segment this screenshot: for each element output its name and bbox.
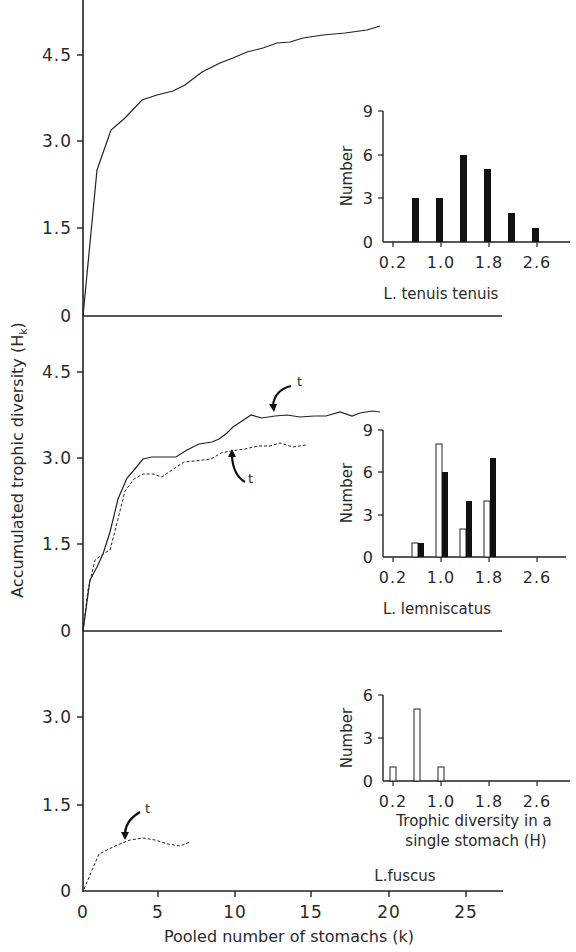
inset-x-title: Trophic diversity in a xyxy=(395,812,551,830)
panel-lemniscatus: 4.5 3.0 1.5 0 t t 9 6 3 0 Number xyxy=(42,362,566,641)
t-arrow-icon xyxy=(273,386,291,405)
x-tick: 5 xyxy=(152,902,164,922)
inset-y-tick: 0 xyxy=(363,548,374,567)
inset-y-tick: 3 xyxy=(363,729,374,748)
inset-fuscus: 6 3 0 Number 0.2 1.0 1.8 2.6 Trophic div… xyxy=(338,686,570,885)
inset-y-tick: 9 xyxy=(363,102,374,121)
inset-y-tick: 6 xyxy=(363,686,374,705)
y-tick: 3.0 xyxy=(42,707,72,727)
t-annotation: t xyxy=(297,374,302,389)
inset-x-title: single stomach (H) xyxy=(405,832,546,850)
y-tick: 1.5 xyxy=(42,218,72,238)
species-label-fuscus: L.fuscus xyxy=(374,867,435,885)
inset-tenuis: 9 6 3 0 Number 0.2 1.0 1.8 2.6 L. tenuis… xyxy=(338,102,570,303)
inset-x-tick: 1.0 xyxy=(427,792,455,811)
x-axis-label: Pooled number of stomachs (k) xyxy=(164,927,414,946)
inset-x-tick: 1.0 xyxy=(427,568,455,587)
x-tick: 25 xyxy=(454,902,478,922)
figure: 4.5 3.0 1.5 0 9 6 3 0 Number 0.2 1.0 1.8… xyxy=(0,0,576,952)
y-tick: 3.0 xyxy=(42,448,72,468)
inset-x-tick: 2.6 xyxy=(523,568,551,587)
inset-y-tick: 6 xyxy=(363,146,374,165)
inset-x-tick: 1.8 xyxy=(475,792,503,811)
t-annotation: t xyxy=(145,801,150,816)
y-tick: 0 xyxy=(60,621,72,641)
tenuis-curve xyxy=(83,26,380,316)
species-label-lemniscatus: L. lemniscatus xyxy=(383,600,491,618)
inset-lemniscatus: 9 6 3 0 Number 0.2 1.0 1.8 2.6 L. lemnis… xyxy=(338,421,566,618)
y-tick: 0 xyxy=(60,306,72,326)
y-tick: 0 xyxy=(60,881,72,901)
inset-y-tick: 0 xyxy=(363,233,374,252)
y-tick: 3.0 xyxy=(42,131,72,151)
t-annotation: t xyxy=(248,471,253,486)
inset-x-tick: 1.0 xyxy=(427,253,455,272)
panel-fuscus: 3.0 1.5 0 0 5 10 15 20 25 Pooled number … xyxy=(42,686,570,946)
x-tick: 15 xyxy=(299,902,323,922)
y-tick: 4.5 xyxy=(42,362,72,382)
inset-y-tick: 3 xyxy=(363,189,374,208)
lemniscatus-dashed-curve xyxy=(83,443,306,631)
inset-y-label: Number xyxy=(338,145,356,206)
inset-y-tick: 0 xyxy=(363,772,374,791)
y-tick: 4.5 xyxy=(42,45,72,65)
inset-y-label: Number xyxy=(338,707,356,768)
lemniscatus-solid-curve xyxy=(83,411,380,631)
inset-x-tick: 2.6 xyxy=(523,792,551,811)
inset-x-tick: 0.2 xyxy=(379,792,407,811)
inset-y-tick: 6 xyxy=(363,463,374,482)
inset-x-tick: 2.6 xyxy=(523,253,551,272)
inset-x-tick: 1.8 xyxy=(475,253,503,272)
y-tick: 1.5 xyxy=(42,795,72,815)
fuscus-dashed-curve xyxy=(84,838,190,889)
inset-y-label: Number xyxy=(338,462,356,523)
inset-x-tick: 0.2 xyxy=(379,253,407,272)
x-tick: 10 xyxy=(223,902,247,922)
t-arrow-icon xyxy=(125,812,140,833)
y-axis-label: Accumulated trophic diversity (Hk) xyxy=(8,322,30,598)
inset-x-tick: 0.2 xyxy=(379,568,407,587)
x-tick: 0 xyxy=(77,902,89,922)
panel-tenuis: 4.5 3.0 1.5 0 9 6 3 0 Number 0.2 1.0 1.8… xyxy=(42,26,570,326)
inset-y-tick: 9 xyxy=(363,421,374,440)
y-tick: 1.5 xyxy=(42,534,72,554)
species-label-tenuis: L. tenuis tenuis xyxy=(384,285,499,303)
inset-x-tick: 1.8 xyxy=(475,568,503,587)
t-arrow-icon xyxy=(232,456,245,482)
inset-y-tick: 3 xyxy=(363,506,374,525)
x-tick: 20 xyxy=(377,902,401,922)
